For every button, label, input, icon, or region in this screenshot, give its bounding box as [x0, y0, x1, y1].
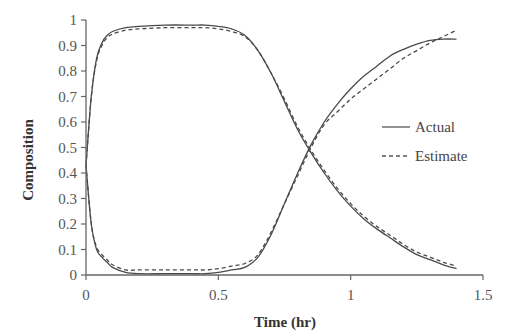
x-tick-label: 0	[82, 287, 90, 303]
plot-lines	[86, 25, 457, 274]
x-tick-label: 1	[347, 287, 355, 303]
y-tick-label: 0	[70, 267, 78, 283]
y-tick-label: 0.7	[58, 89, 77, 105]
x-tick-label: 0.5	[209, 287, 228, 303]
x-tick-label: 1.5	[474, 287, 493, 303]
y-tick-label: 0.5	[58, 140, 77, 156]
y-tick-label: 0.3	[58, 191, 77, 207]
y-axis-title: Composition	[20, 119, 36, 201]
y-axis-ticks: 00.10.20.30.40.50.60.70.80.91	[58, 12, 86, 283]
y-tick-label: 0.6	[58, 114, 77, 130]
y-tick-label: 0.2	[58, 216, 77, 232]
y-tick-label: 0.4	[58, 165, 77, 181]
legend: Actual Estimate	[382, 119, 468, 164]
y-tick-label: 0.1	[58, 242, 77, 258]
y-tick-label: 0.9	[58, 38, 77, 54]
composition-chart: 00.10.20.30.40.50.60.70.80.91 00.511.5 T…	[0, 0, 507, 336]
y-tick-label: 1	[70, 12, 78, 28]
estimate-line	[86, 28, 457, 267]
legend-label-actual: Actual	[415, 119, 455, 135]
x-axis-ticks: 00.511.5	[82, 275, 492, 303]
x-axis-title: Time (hr)	[254, 314, 316, 331]
legend-label-estimate: Estimate	[415, 148, 468, 164]
y-tick-label: 0.8	[58, 63, 77, 79]
